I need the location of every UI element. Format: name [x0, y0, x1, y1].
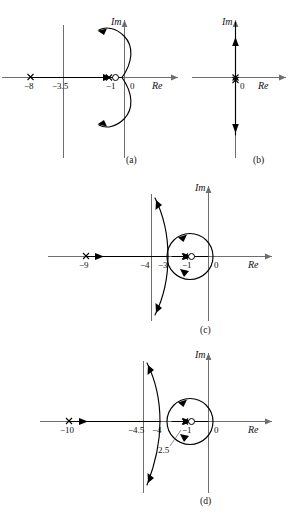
plot-a-imag-axis-arrow	[122, 20, 128, 27]
plot-d-tick-neg4: −4	[152, 426, 162, 435]
plot-d-real-axis-arrow	[265, 419, 272, 425]
plot-c-real-axis-arrow	[265, 254, 272, 260]
plot-d-tick-neg10: −10	[60, 426, 74, 435]
plot-c-upper-arc-arrow	[156, 200, 163, 210]
plot-d-tick-zero: 0	[214, 426, 219, 435]
plot-a-axis-label-im: Im	[111, 17, 122, 27]
plot-d-upper-arc-arrow	[148, 365, 155, 375]
plot-c-circle-lower-arrow	[180, 269, 189, 277]
plot-a-tick-zero: 0	[130, 82, 135, 91]
plot-c-axis-label-re: Re	[248, 260, 259, 270]
plot-c-imag-axis-arrow	[206, 186, 212, 193]
plot-d-canvas	[0, 345, 293, 495]
plot-d-imag-axis-arrow	[206, 353, 212, 360]
plot-d-radius-annotation: 2.5	[158, 446, 169, 455]
root-locus-plot-a: −8 −3.5 −1 0 Re Im	[0, 0, 190, 160]
plot-c-tick-neg3: −3	[158, 261, 168, 270]
plot-b-caption: (b)	[253, 156, 264, 166]
plot-d-real-locus-arrow	[79, 418, 88, 425]
plot-d-zero-neg1	[189, 419, 195, 425]
plot-d-axis-label-re: Re	[248, 425, 259, 435]
plot-b-upper-branch-arrow	[232, 37, 239, 46]
plot-d-circle-lower-arrow	[180, 434, 189, 442]
plot-a-axis-label-re: Re	[152, 81, 163, 91]
plot-d-tick-neg4p5: −4.5	[128, 426, 144, 435]
plot-c-real-locus-arrow	[95, 253, 104, 260]
plot-b-lower-branch-arrow	[232, 124, 239, 133]
plot-b-axis-label-re: Re	[258, 81, 269, 91]
plot-a-tick-neg8: −8	[24, 82, 34, 91]
plot-c-zero-neg1	[189, 254, 195, 260]
plot-b-axis-label-im: Im	[222, 17, 233, 27]
plot-c-tick-zero: 0	[214, 261, 219, 270]
plot-a-upper-branch	[99, 28, 131, 78]
plot-d-axis-label-im: Im	[195, 350, 206, 360]
plot-d-tick-neg1: −1	[182, 426, 192, 435]
root-locus-plot-d: −10 −4.5 −4 −1 0 2.5 Re Im	[0, 345, 293, 495]
plot-a-tick-neg1: −1	[106, 82, 116, 91]
plot-b-canvas	[190, 0, 293, 160]
plot-d-caption: (d)	[200, 497, 211, 507]
plot-c-tick-neg1: −1	[182, 261, 192, 270]
root-locus-plot-b: 0 Re Im	[190, 0, 293, 160]
plot-c-tick-neg9: −9	[79, 261, 89, 270]
plot-a-real-axis-arrow	[171, 75, 178, 81]
plot-a-caption: (a)	[126, 156, 137, 166]
plot-b-real-axis-arrow	[279, 75, 286, 81]
plot-c-tick-neg4: −4	[140, 261, 150, 270]
plot-a-zero-neg1	[113, 75, 119, 81]
plot-c-canvas	[0, 178, 293, 323]
plot-a-tick-neg3p5: −3.5	[52, 82, 68, 91]
plot-c-caption: (c)	[200, 326, 211, 336]
plot-c-lower-arc-arrow	[156, 303, 163, 313]
root-locus-plot-c: −9 −4 −3 −1 0 Re Im	[0, 178, 293, 323]
plot-b-tick-zero: 0	[240, 82, 245, 91]
plot-d-radius-leader-line	[170, 430, 181, 446]
plot-c-axis-label-im: Im	[195, 183, 206, 193]
